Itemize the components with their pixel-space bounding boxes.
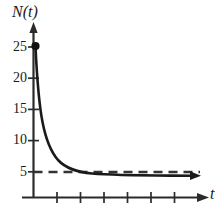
y-tick-label-10: 10 <box>0 133 27 147</box>
y-axis-label: N(t) <box>12 4 38 20</box>
y-tick-label-5: 5 <box>0 165 27 179</box>
y-tick-label-20: 20 <box>0 71 27 85</box>
decay-curve <box>36 47 194 176</box>
y-tick-label-25: 25 <box>0 40 27 54</box>
x-axis <box>22 193 209 202</box>
chart-plot-area <box>0 0 219 213</box>
x-axis-label: t <box>210 186 214 202</box>
initial-value-point <box>31 42 39 50</box>
chart-figure: N(t) t 25 20 15 10 5 <box>0 0 219 213</box>
y-tick-label-15: 15 <box>0 102 27 116</box>
